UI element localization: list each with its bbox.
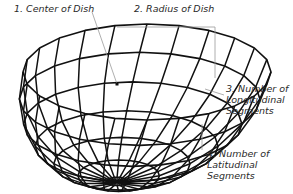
label-radius-of-dish: 2. Radius of Dish	[134, 3, 214, 14]
label-text: Segments	[226, 105, 288, 116]
center-point-marker	[116, 83, 119, 86]
label-latitudinal-segments: 4. Number of Latitudinal Segments	[207, 148, 269, 181]
label-center-of-dish: 1. Center of Dish	[14, 3, 94, 14]
label-text: Latitudinal	[207, 159, 269, 170]
label-text: 3. Number of	[226, 83, 288, 94]
label-text: Segments	[207, 170, 269, 181]
label-longitudinal-segments: 3. Number of Longitudinal Segments	[226, 83, 288, 116]
leader-center	[92, 12, 117, 84]
label-text: 1. Center of Dish	[14, 3, 94, 14]
label-text: Longitudinal	[226, 94, 288, 105]
dish-diagram: 1. Center of Dish 2. Radius of Dish 3. N…	[0, 0, 293, 194]
label-text: 2. Radius of Dish	[134, 3, 214, 14]
label-text: 4. Number of	[207, 148, 269, 159]
